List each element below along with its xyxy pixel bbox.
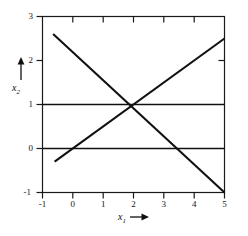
y-tick-label-minus1: -1 — [17, 188, 31, 197]
y-tick-label-0: 0 — [19, 144, 33, 153]
y-tick-label-2: 2 — [19, 56, 33, 65]
x-tick-label-0: 0 — [66, 200, 80, 209]
x-tick-label-4: 4 — [187, 200, 201, 209]
line-ascending — [55, 39, 225, 162]
y-tick-label-1: 1 — [19, 100, 33, 109]
y-axis-ticks — [37, 17, 43, 193]
right-arrow-icon — [130, 214, 149, 221]
y-axis-title: x2 — [12, 83, 20, 96]
x-axis-ticks — [43, 193, 225, 199]
x-tick-label-5: 5 — [218, 200, 232, 209]
x-tick-label-1: 1 — [96, 200, 110, 209]
y-axis-title-subscript: 2 — [16, 88, 20, 96]
y-tick-label-3: 3 — [19, 12, 33, 21]
x-axis-title: x1 — [118, 212, 126, 225]
x-axis-title-subscript: 1 — [122, 217, 126, 225]
x-tick-label-2: 2 — [127, 200, 141, 209]
top-axis-ticks — [73, 17, 194, 23]
chart-figure: 3 2 1 0 -1 -1 0 1 2 3 4 5 x1 x2 — [0, 0, 248, 236]
data-line-group — [43, 34, 225, 192]
x-tick-label-minus1: -1 — [36, 200, 50, 209]
x-tick-label-3: 3 — [157, 200, 171, 209]
